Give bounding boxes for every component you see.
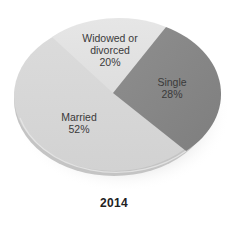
label-widowed-line1: Widowed or bbox=[80, 32, 140, 44]
label-married-name: Married bbox=[57, 111, 101, 123]
label-single-name: Single bbox=[152, 76, 192, 88]
chart-title: 2014 bbox=[0, 196, 228, 210]
label-widowed-divorced: Widowed or divorced 20% bbox=[80, 32, 140, 68]
label-married-pct: 52% bbox=[57, 123, 101, 135]
label-single: Single 28% bbox=[152, 76, 192, 100]
label-widowed-line2: divorced bbox=[80, 44, 140, 56]
label-single-pct: 28% bbox=[152, 88, 192, 100]
label-widowed-pct: 20% bbox=[80, 56, 140, 68]
label-married: Married 52% bbox=[57, 111, 101, 135]
